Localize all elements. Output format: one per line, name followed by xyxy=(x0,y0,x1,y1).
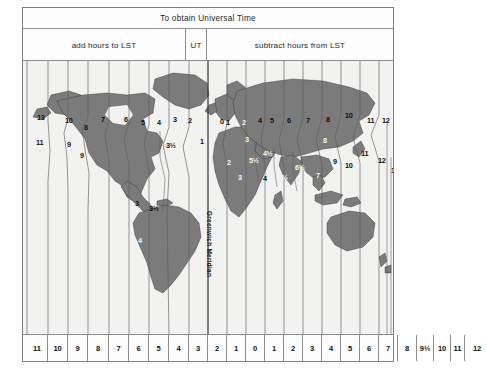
hour-tick-17: 6 xyxy=(360,335,379,361)
zone-label-35: 5½ xyxy=(249,156,259,165)
hour-tick-label: 4 xyxy=(176,344,180,353)
zone-label-25: 12 xyxy=(382,116,390,125)
zone-label-14: 0 xyxy=(220,117,224,126)
hour-tick-label: 2 xyxy=(215,344,219,353)
zone-label-30: 10 xyxy=(345,161,353,170)
zone-label-15: 1 xyxy=(226,118,230,127)
zone-label-40: 7 xyxy=(316,171,320,180)
hour-tick-20: 9½ xyxy=(417,335,434,361)
hour-tick-label: 2 xyxy=(291,344,295,353)
offset-direction-header: add hours to LST UT subtract hours from … xyxy=(23,29,393,61)
hour-tick-label: 4 xyxy=(329,344,333,353)
zone-label-21: 7 xyxy=(306,116,310,125)
zone-label-8: 2 xyxy=(188,116,192,125)
zone-label-18: 4 xyxy=(258,116,262,125)
zone-label-22: 8 xyxy=(326,115,330,124)
hour-tick-6: 5 xyxy=(149,335,169,361)
hour-tick-19: 8 xyxy=(398,335,417,361)
hour-tick-9: 2 xyxy=(208,335,227,361)
hour-tick-3: 8 xyxy=(88,335,109,361)
zone-label-2: 8 xyxy=(84,123,88,132)
zone-label-6: 4 xyxy=(157,118,161,127)
hour-tick-label: 6 xyxy=(136,344,140,353)
hour-tick-7: 4 xyxy=(169,335,189,361)
zone-label-16: 2 xyxy=(242,118,246,127)
subtract-hours-segment: subtract hours from LST xyxy=(207,29,393,61)
zone-label-43: 4 xyxy=(138,236,142,245)
universal-time-header: To obtain Universal Time xyxy=(23,8,393,29)
hour-tick-1: 10 xyxy=(48,335,68,361)
hour-tick-label: 1 xyxy=(234,344,238,353)
hour-tick-label: 9½ xyxy=(420,344,430,353)
zone-label-29: 9 xyxy=(333,157,337,166)
zone-label-3: 7 xyxy=(101,115,105,124)
zone-label-20: 6 xyxy=(287,116,291,125)
zone-label-5: 5 xyxy=(141,118,145,127)
hour-tick-label: 10 xyxy=(438,344,446,353)
zone-label-36: 3 xyxy=(238,173,242,182)
hour-tick-label: 11 xyxy=(454,344,462,353)
zone-label-34: 4½ xyxy=(263,149,273,158)
hour-tick-label: 5 xyxy=(156,344,160,353)
zone-label-12: 3½ xyxy=(166,141,176,150)
zone-label-32: 12 xyxy=(391,166,393,175)
zone-label-1: 10 xyxy=(65,116,73,125)
zone-label-31: 12 xyxy=(378,156,386,165)
hour-tick-label: 8 xyxy=(405,344,409,353)
zone-label-38: 5½ xyxy=(278,173,288,182)
hour-tick-label: 1 xyxy=(272,344,276,353)
hour-tick-label: 7 xyxy=(386,344,390,353)
universal-time-label: To obtain Universal Time xyxy=(160,14,256,23)
hour-tick-13: 2 xyxy=(284,335,303,361)
hour-tick-label: 11 xyxy=(33,344,41,353)
zone-label-10: 9 xyxy=(67,140,71,149)
hour-tick-0: 11 xyxy=(27,335,48,361)
ut-segment: UT xyxy=(185,29,207,61)
hour-tick-15: 4 xyxy=(322,335,341,361)
zone-label-11: 9 xyxy=(80,151,84,160)
zone-label-28: 11 xyxy=(361,149,368,158)
zone-label-13: 1 xyxy=(200,137,204,146)
world-map-graphic xyxy=(23,61,393,335)
hour-tick-label: 10 xyxy=(53,344,61,353)
hour-scale-axis: 11109876543210123456789½101112 xyxy=(23,335,393,361)
hour-tick-label: 3 xyxy=(310,344,314,353)
zone-label-41: 3 xyxy=(135,199,139,208)
hour-tick-label: 3 xyxy=(196,344,200,353)
zone-label-19: 5 xyxy=(270,116,274,125)
ut-label: UT xyxy=(190,41,201,50)
zone-label-44: 3 xyxy=(135,265,139,274)
hour-tick-label: 6 xyxy=(367,344,371,353)
hour-tick-4: 7 xyxy=(109,335,129,361)
add-hours-segment: add hours to LST xyxy=(23,29,185,61)
hour-tick-21: 10 xyxy=(434,335,451,361)
hour-tick-5: 6 xyxy=(129,335,149,361)
zone-label-17: 3 xyxy=(245,135,249,144)
hour-tick-16: 5 xyxy=(341,335,360,361)
hour-tick-18: 7 xyxy=(379,335,398,361)
zone-label-23: 10 xyxy=(345,111,353,120)
hour-tick-2: 9 xyxy=(68,335,88,361)
zone-label-42: 3½ xyxy=(149,204,159,213)
hour-tick-10: 1 xyxy=(227,335,246,361)
zone-label-27: 8 xyxy=(323,136,327,145)
zone-label-7: 3 xyxy=(173,115,177,124)
hour-tick-label: 8 xyxy=(96,344,100,353)
hour-tick-label: 9 xyxy=(75,344,79,353)
hour-tick-label: 12 xyxy=(473,344,481,353)
hour-tick-11: 0 xyxy=(246,335,265,361)
add-hours-label: add hours to LST xyxy=(72,41,137,50)
greenwich-meridian-label: Greenwich Meridian xyxy=(206,211,213,277)
world-map-plate: Greenwich Meridian Date Line 13108765432… xyxy=(23,61,393,335)
hour-tick-14: 3 xyxy=(303,335,322,361)
hour-tick-23: 12 xyxy=(465,335,486,361)
hour-tick-12: 1 xyxy=(265,335,284,361)
hour-tick-8: 3 xyxy=(189,335,208,361)
zone-label-0: 13 xyxy=(37,113,45,122)
zone-label-24: 11 xyxy=(367,116,374,125)
zone-label-4: 6 xyxy=(124,115,128,124)
zone-label-39: 6½ xyxy=(295,163,305,172)
zone-label-9: 11 xyxy=(36,138,43,147)
zone-label-33: 2 xyxy=(227,158,231,167)
hour-tick-label: 5 xyxy=(348,344,352,353)
